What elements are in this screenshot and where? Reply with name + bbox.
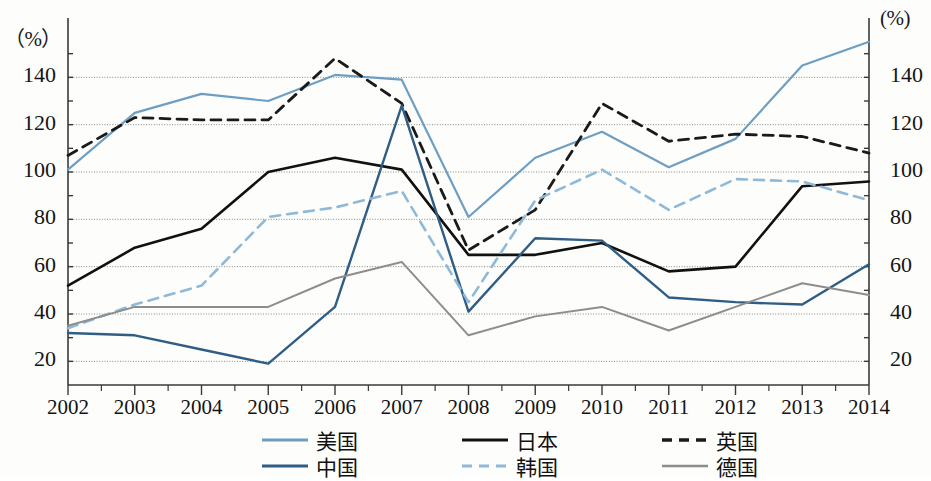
data-series: [68, 42, 869, 364]
legend-line-swatch: [462, 459, 508, 473]
legend-line-swatch: [662, 459, 708, 473]
chart-legend: 美国日本英国 中国韩国德国: [262, 428, 862, 476]
legend-line-swatch: [462, 433, 508, 447]
legend-label: 韩国: [516, 451, 558, 481]
series-line: [68, 262, 869, 335]
legend-line-swatch: [262, 459, 308, 473]
legend-item[interactable]: 美国: [262, 428, 462, 452]
legend-label: 德国: [716, 451, 758, 481]
axis-lines: [68, 18, 869, 385]
series-line: [68, 106, 869, 364]
legend-item[interactable]: 韩国: [462, 454, 662, 478]
legend-line-swatch: [262, 433, 308, 447]
series-line: [68, 42, 869, 217]
legend-row-top: 美国日本英国: [262, 428, 862, 452]
legend-row-bottom: 中国韩国德国: [262, 454, 862, 478]
axis-tick-marks: [68, 54, 869, 395]
series-line: [68, 58, 869, 250]
legend-label: 中国: [316, 451, 358, 481]
legend-item[interactable]: 德国: [662, 454, 862, 478]
legend-line-swatch: [662, 433, 708, 447]
legend-item[interactable]: 中国: [262, 454, 462, 478]
legend-item[interactable]: 日本: [462, 428, 662, 452]
legend-item[interactable]: 英国: [662, 428, 862, 452]
